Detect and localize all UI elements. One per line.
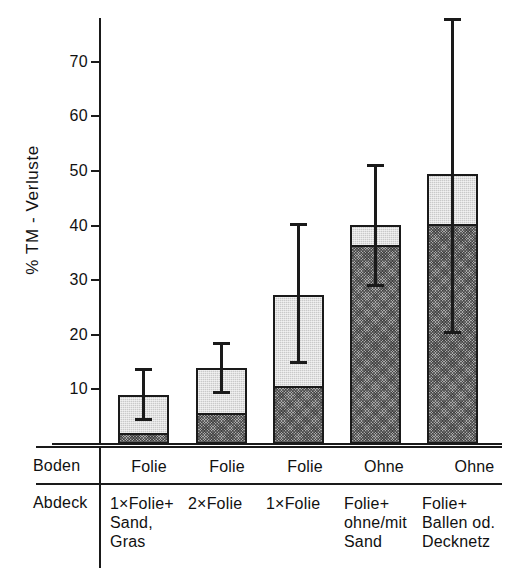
error-bar-cap-top [290, 223, 307, 226]
error-bar-stem [297, 223, 300, 364]
bar-segment-lower [196, 413, 247, 444]
error-bar-cap-top [135, 368, 152, 371]
table-cell-abdeck: 2×Folie [188, 494, 266, 513]
y-axis-line [99, 18, 101, 445]
y-axis-tick-label: 70 [44, 54, 88, 70]
y-axis-tick-label: 50 [44, 163, 88, 179]
table-rule-middle [36, 483, 502, 485]
error-bar-stem [220, 342, 223, 394]
table-cell-boden: Folie [266, 457, 344, 476]
table-cell-boden: Ohne [344, 457, 424, 476]
error-bar-cap-top [213, 342, 230, 345]
error-bar-stem [451, 18, 454, 334]
category-table: Boden Abdeck FolieFolieFolieOhneOhne1×Fo… [0, 445, 531, 575]
chart-container: 70605040302010 % TM - Verluste Boden Abd… [0, 0, 531, 575]
error-bar-cap-bottom [135, 418, 152, 421]
error-bar-cap-bottom [367, 284, 384, 287]
table-cell-boden: Folie [110, 457, 188, 476]
table-cell-boden: Folie [188, 457, 266, 476]
row-header-abdeck: Abdeck [33, 494, 99, 512]
y-axis-tick [91, 61, 100, 63]
error-bar-cap-bottom [290, 361, 307, 364]
bar-segment-lower [273, 386, 324, 444]
table-rule-top [36, 446, 502, 448]
table-cell-boden: Ohne [422, 457, 527, 476]
table-cell-abdeck: 1×Folie [266, 494, 344, 513]
error-bar-cap-top [367, 164, 384, 167]
y-axis-tick-labels: 70605040302010 [38, 0, 88, 460]
y-axis-tick-label: 60 [44, 108, 88, 124]
bar-segment-lower [118, 433, 169, 444]
y-axis-tick-label: 10 [44, 381, 88, 397]
error-bar-stem [142, 368, 145, 421]
y-axis-tick [91, 170, 100, 172]
y-axis-title: % TM - Verluste [23, 115, 43, 305]
y-axis-tick-label: 30 [44, 272, 88, 288]
table-cell-abdeck: Folie+ Ballen od. Decknetz [422, 494, 527, 551]
y-axis-tick [91, 225, 100, 227]
y-axis-tick-label: 40 [44, 218, 88, 234]
y-axis-tick [91, 115, 100, 117]
y-axis-tick [91, 334, 100, 336]
y-axis-tick [91, 279, 100, 281]
table-vertical-rule [99, 446, 101, 568]
y-axis-tick-label: 20 [44, 327, 88, 343]
y-axis-tick [91, 388, 100, 390]
row-header-boden: Boden [33, 457, 99, 475]
table-cell-abdeck: Folie+ ohne/mit Sand [344, 494, 424, 551]
table-cell-abdeck: 1×Folie+ Sand, Gras [110, 494, 188, 551]
plot-area: 70605040302010 % TM - Verluste [0, 0, 531, 460]
error-bar-cap-bottom [444, 331, 461, 334]
error-bar-cap-top [444, 18, 461, 21]
error-bar-cap-bottom [213, 391, 230, 394]
error-bar-stem [374, 164, 377, 287]
